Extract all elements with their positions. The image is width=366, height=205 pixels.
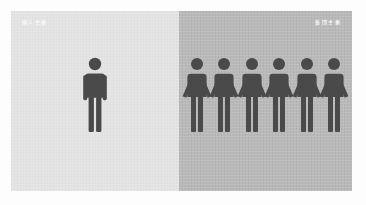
person-standing-icon: [78, 56, 112, 134]
collective-panel: 集団主義: [179, 11, 352, 191]
people-holding-hands-row: [181, 56, 351, 134]
individual-figure-group: [11, 11, 179, 191]
illustration-canvas: 個人主義 集: [0, 0, 366, 205]
person-holding-hands-icon: [318, 56, 350, 134]
two-panel-illustration: 個人主義 集: [11, 11, 352, 191]
individual-panel: 個人主義: [11, 11, 179, 191]
collective-figure-group: [179, 11, 352, 191]
